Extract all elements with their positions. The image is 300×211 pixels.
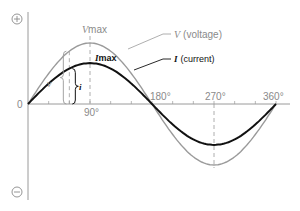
origin-label: 0 — [17, 99, 23, 110]
minus-icon — [12, 187, 22, 197]
voltage-leader-line — [128, 34, 171, 49]
current-leader-line — [134, 59, 171, 70]
ac-waveform-diagram: 0 v i 90° 180° 270° 360° Vmax Imax V(vol… — [0, 0, 300, 211]
tick-label-360: 360° — [263, 91, 284, 102]
tick-label-270: 270° — [205, 91, 226, 102]
imax-label: Imax — [94, 53, 117, 63]
instant-current-label: i — [79, 82, 82, 92]
voltage-legend-label: V(voltage) — [174, 29, 222, 40]
tick-label-180: 180° — [150, 91, 171, 102]
current-legend-label: I(current) — [173, 54, 215, 64]
vmax-label: Vmax — [82, 24, 107, 35]
current-instant-brace — [72, 69, 78, 104]
instant-voltage-label: v — [47, 78, 52, 89]
plus-icon — [12, 14, 22, 24]
tick-label-90: 90° — [84, 107, 99, 118]
